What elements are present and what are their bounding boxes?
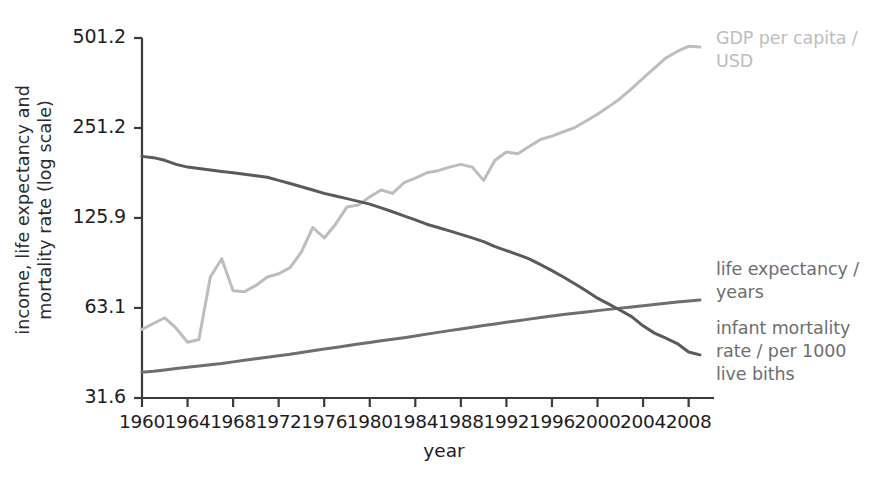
series-label-imr-line1: infant mortality — [716, 318, 850, 338]
series-line-2 — [142, 156, 700, 355]
y-tick-label-2: 125.9 — [32, 205, 126, 227]
series-label-life-line1: life expectancy / — [716, 259, 859, 279]
chart-figure: income, life expectancy and mortality ra… — [0, 0, 888, 487]
series-label-imr-line3: live biths — [716, 364, 794, 384]
x-axis-title: year — [0, 440, 888, 461]
series-label-gdp-line2: USD — [716, 51, 753, 71]
series-label-imr-line2: rate / per 1000 — [716, 341, 846, 361]
series-label-life-line2: years — [716, 282, 764, 302]
series-line-1 — [142, 300, 700, 372]
series-label-gdp-line1: GDP per capita / — [716, 28, 858, 48]
series-label-infant-mortality: infant mortality rate / per 1000 live bi… — [716, 317, 886, 385]
y-tick-label-1: 251.2 — [32, 115, 126, 137]
data-series — [142, 46, 700, 372]
y-tick-label-3: 63.1 — [32, 295, 126, 317]
y-tick-label-0: 501.2 — [32, 25, 126, 47]
x-tick-label-12: 2008 — [659, 411, 719, 432]
series-label-life-expectancy: life expectancy / years — [716, 258, 886, 304]
series-label-gdp: GDP per capita / USD — [716, 27, 886, 73]
series-line-0 — [142, 46, 700, 342]
y-tick-label-4: 31.6 — [32, 385, 126, 407]
